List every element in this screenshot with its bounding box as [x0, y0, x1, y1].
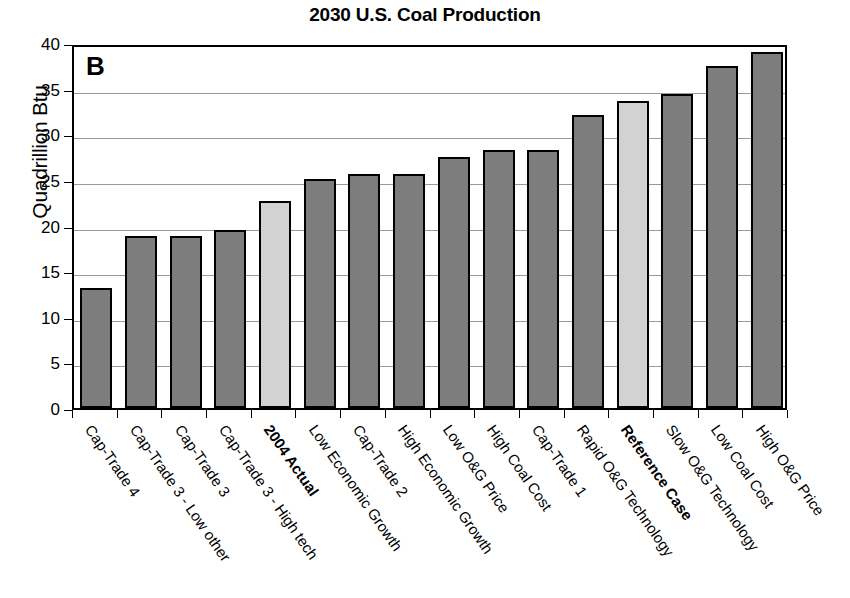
chart-title: 2030 U.S. Coal Production: [0, 4, 850, 26]
x-tick-mark: [72, 410, 73, 418]
bar[interactable]: [617, 101, 649, 408]
y-tick-label: 20: [20, 219, 60, 236]
x-tick-mark: [608, 410, 609, 418]
plot-area: B: [72, 45, 787, 410]
bar[interactable]: [751, 52, 783, 408]
x-tick-mark: [742, 410, 743, 418]
x-tick-mark: [787, 410, 788, 418]
x-tick-mark: [117, 410, 118, 418]
x-tick-mark: [206, 410, 207, 418]
y-tick-label: 0: [20, 401, 60, 418]
bar[interactable]: [572, 115, 604, 408]
x-tick-mark: [653, 410, 654, 418]
bar[interactable]: [483, 150, 515, 408]
y-tick-label: 30: [20, 127, 60, 144]
y-tick-label: 40: [20, 36, 60, 53]
x-tick-mark: [430, 410, 431, 418]
x-tick-mark: [295, 410, 296, 418]
bar[interactable]: [214, 230, 246, 408]
y-tick-mark: [64, 228, 72, 229]
bar[interactable]: [259, 201, 291, 408]
y-tick-mark: [64, 45, 72, 46]
bar[interactable]: [661, 94, 693, 408]
bar[interactable]: [706, 66, 738, 408]
bar[interactable]: [527, 150, 559, 408]
y-tick-mark: [64, 319, 72, 320]
x-tick-mark: [564, 410, 565, 418]
x-tick-mark: [519, 410, 520, 418]
y-tick-mark: [64, 273, 72, 274]
y-tick-label: 5: [20, 355, 60, 372]
y-tick-label: 15: [20, 264, 60, 281]
x-tick-mark: [385, 410, 386, 418]
y-tick-mark: [64, 182, 72, 183]
x-tick-mark: [698, 410, 699, 418]
bar[interactable]: [170, 236, 202, 408]
bar[interactable]: [393, 174, 425, 409]
x-tick-mark: [251, 410, 252, 418]
x-tick-mark: [474, 410, 475, 418]
bar[interactable]: [438, 157, 470, 408]
bar[interactable]: [80, 288, 112, 408]
y-tick-mark: [64, 364, 72, 365]
bar[interactable]: [304, 179, 336, 408]
y-tick-label: 35: [20, 82, 60, 99]
x-tick-mark: [161, 410, 162, 418]
y-tick-mark: [64, 410, 72, 411]
bar[interactable]: [348, 174, 380, 409]
panel-letter: B: [86, 53, 105, 79]
x-tick-mark: [340, 410, 341, 418]
y-tick-label: 25: [20, 173, 60, 190]
bar[interactable]: [125, 236, 157, 408]
y-tick-mark: [64, 136, 72, 137]
y-tick-mark: [64, 91, 72, 92]
y-tick-label: 10: [20, 310, 60, 327]
